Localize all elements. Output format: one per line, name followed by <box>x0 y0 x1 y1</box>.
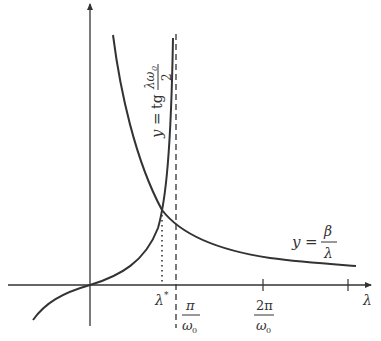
x-axis-label: λ <box>362 292 372 308</box>
plot-svg: y = tg λω 0 2 y = β λ λ * π ω 0 2π ω 0 λ <box>0 0 381 341</box>
diagram-canvas: y = tg λω 0 2 y = β λ λ * π ω 0 2π ω 0 λ <box>0 0 381 341</box>
tick-label-pi-over-omega0: π ω 0 <box>182 298 200 335</box>
svg-text:*: * <box>164 290 169 300</box>
svg-text:2π: 2π <box>256 298 273 313</box>
svg-text:y: y <box>291 233 301 251</box>
svg-text:y: y <box>148 129 166 139</box>
svg-text:0: 0 <box>192 326 197 335</box>
svg-text:tg: tg <box>149 94 165 109</box>
svg-text:β: β <box>323 223 332 239</box>
svg-text:λ: λ <box>154 292 164 308</box>
lambda-star-label: λ * <box>154 290 169 308</box>
hyperbola-label: y = β λ <box>291 223 337 261</box>
svg-text:2: 2 <box>160 73 174 81</box>
svg-text:π: π <box>185 298 195 313</box>
svg-text:=: = <box>148 112 166 125</box>
svg-text:λ: λ <box>323 245 333 261</box>
svg-text:0: 0 <box>266 326 271 335</box>
tick-label-2pi-over-omega0: 2π ω 0 <box>254 298 274 335</box>
svg-text:=: = <box>305 233 318 251</box>
svg-text:λω: λω <box>143 71 157 90</box>
